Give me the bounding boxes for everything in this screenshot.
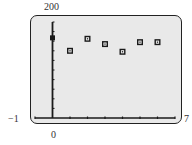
data-point-center	[157, 42, 158, 43]
data-point-center	[104, 43, 105, 44]
data-point-center	[69, 50, 70, 51]
data-point-center	[122, 51, 123, 52]
data-point	[50, 35, 55, 40]
data-point-center	[139, 42, 140, 43]
data-point-center	[87, 38, 88, 39]
scatter-plot	[0, 0, 192, 145]
